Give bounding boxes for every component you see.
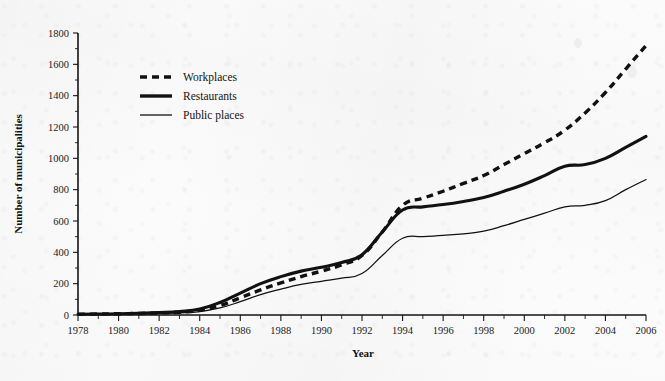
scan-smudge: [574, 38, 582, 48]
x-tick-label: 1994: [392, 325, 414, 336]
chart-legend: Workplaces Restaurants Public places: [140, 71, 245, 122]
x-axis-ticks: [78, 315, 646, 321]
y-axis-tick-labels: 020040060080010001200140016001800: [48, 28, 69, 321]
x-axis-tick-labels: 1978198019821984198619881990199219941996…: [68, 325, 657, 336]
x-tick-label: 1990: [311, 325, 332, 336]
x-tick-label: 1980: [108, 325, 129, 336]
x-tick-label: 1988: [270, 325, 291, 336]
x-tick-label: 1982: [149, 325, 170, 336]
legend-label-workplaces: Workplaces: [183, 71, 238, 84]
y-tick-label: 400: [53, 247, 69, 258]
y-tick-label: 1800: [48, 28, 69, 39]
y-tick-label: 1000: [48, 153, 69, 164]
y-tick-label: 1200: [48, 122, 69, 133]
x-tick-label: 1984: [189, 325, 211, 336]
legend-label-public-places: Public places: [183, 109, 245, 122]
x-tick-label: 2000: [514, 325, 535, 336]
line-chart: 020040060080010001200140016001800 197819…: [0, 0, 665, 381]
series-group: [78, 46, 646, 315]
x-tick-label: 2002: [554, 325, 575, 336]
y-axis-title: Number of municipalities: [12, 113, 24, 233]
y-tick-label: 600: [53, 216, 69, 227]
legend-label-restaurants: Restaurants: [183, 90, 237, 102]
x-tick-label: 1978: [68, 325, 89, 336]
y-tick-label: 0: [64, 310, 69, 321]
scan-smudge: [627, 66, 637, 78]
series-line-restaurants: [78, 136, 646, 314]
x-tick-label: 1998: [473, 325, 494, 336]
y-tick-label: 200: [53, 278, 69, 289]
y-tick-label: 1600: [48, 59, 69, 70]
y-tick-label: 1400: [48, 90, 69, 101]
figure-container: 020040060080010001200140016001800 197819…: [0, 0, 665, 381]
series-line-public-places: [78, 179, 646, 314]
x-axis-title: Year: [352, 347, 374, 359]
x-tick-label: 2004: [595, 325, 617, 336]
x-tick-label: 1986: [230, 325, 251, 336]
y-tick-label: 800: [53, 184, 69, 195]
x-tick-label: 1992: [352, 325, 373, 336]
x-tick-label: 2006: [636, 325, 657, 336]
x-tick-label: 1996: [433, 325, 454, 336]
